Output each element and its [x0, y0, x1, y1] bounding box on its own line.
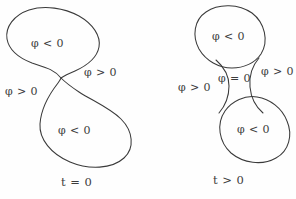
label-left-panel-left-outside: φ > 0 [5, 86, 38, 97]
label-left-panel-upper-inside: φ < 0 [31, 38, 64, 49]
caption-right-panel: t > 0 [213, 175, 244, 187]
label-left-panel-right-outside: φ > 0 [84, 67, 117, 78]
label-right-panel-neck-zero: φ = 0 [218, 73, 251, 84]
label-right-panel-left-outside: φ > 0 [178, 82, 211, 93]
figure-canvas [0, 0, 296, 199]
figure-root: φ < 0 φ > 0 φ > 0 φ < 0 t = 0 φ < 0 φ = … [0, 0, 296, 199]
label-left-panel-lower-inside: φ < 0 [58, 125, 91, 136]
caption-left-panel: t = 0 [61, 177, 92, 189]
label-right-panel-lower-inside: φ < 0 [237, 124, 270, 135]
label-right-panel-right-outside: φ > 0 [261, 66, 294, 77]
figure-eight-lower-lobe [40, 78, 131, 167]
label-right-panel-upper-inside: φ < 0 [212, 31, 245, 42]
